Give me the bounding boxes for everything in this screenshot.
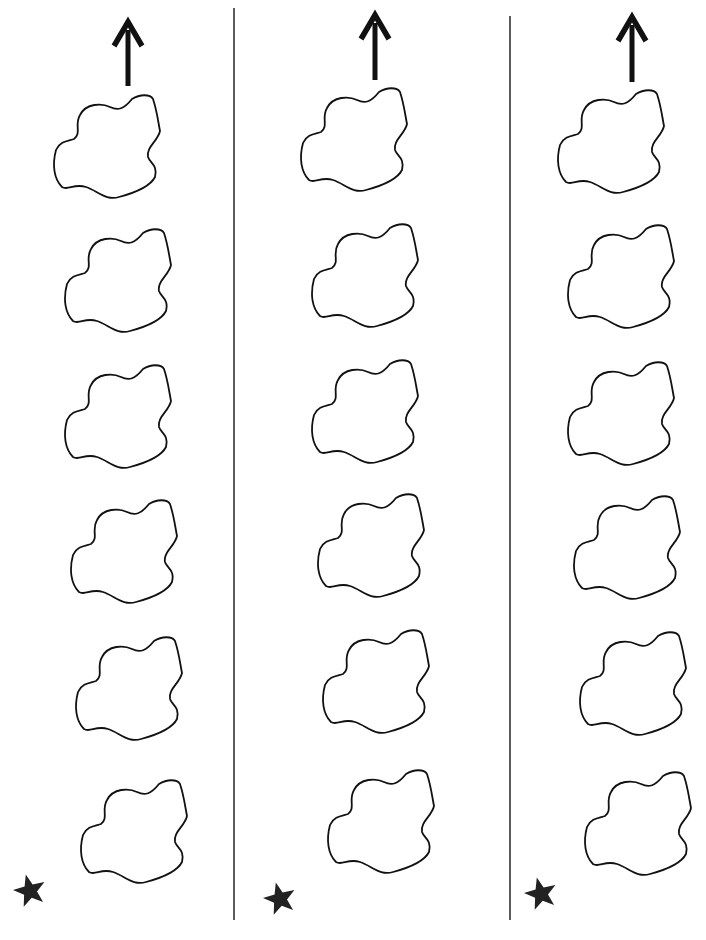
columns [13, 15, 691, 915]
blob-shape-5 [76, 637, 182, 740]
blob-shape-3 [568, 362, 674, 465]
blob-shape-1 [54, 95, 160, 198]
star-icon [13, 875, 44, 907]
blob-shape-2 [568, 225, 674, 328]
blob-shape-4 [71, 500, 177, 603]
blob-shape-2 [312, 224, 418, 327]
star-icon [524, 878, 555, 910]
blob-shape-1 [301, 88, 407, 191]
blob-shape-6 [81, 780, 187, 883]
blob-shape-1 [558, 90, 664, 193]
column-1 [13, 22, 187, 907]
blob-shape-5 [580, 632, 686, 735]
blob-shape-2 [65, 229, 171, 332]
worksheet-drawing [0, 0, 706, 940]
blob-shape-6 [328, 770, 434, 873]
blob-shape-5 [323, 630, 429, 733]
blob-shape-3 [312, 360, 418, 463]
blob-shape-4 [318, 494, 424, 597]
arrow-up-icon [618, 17, 646, 82]
blob-shape-4 [574, 496, 680, 599]
column-dividers [234, 8, 510, 920]
arrow-up-icon [361, 15, 389, 80]
star-icon [263, 883, 294, 915]
blob-shape-3 [65, 365, 171, 468]
column-2 [263, 15, 434, 915]
arrow-up-icon [114, 22, 142, 86]
worksheet-canvas: Three columns, each with an up arrow, si… [0, 0, 706, 940]
blob-shape-6 [585, 772, 691, 875]
column-3 [524, 17, 691, 910]
